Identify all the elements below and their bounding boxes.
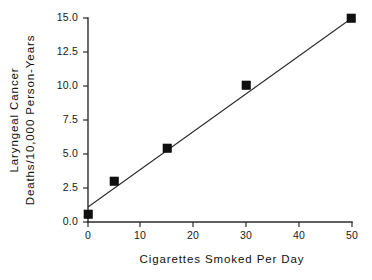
x-tick-label-0: 0 <box>85 229 91 241</box>
y-axis-title-line2: Deaths/10,000 Person-Years <box>24 35 36 206</box>
y-axis-title-line1: Laryngeal Cancer <box>8 67 20 172</box>
scatter-plot-svg: 0.0 2.5 5.0 7.5 10.0 12.5 15.0 0 10 20 3… <box>0 0 372 280</box>
x-tick-label-10: 10 <box>134 229 146 241</box>
x-tick-label-30: 30 <box>240 229 252 241</box>
data-point-0 <box>84 210 93 219</box>
x-axis-title: Cigarettes Smoked Per Day <box>139 253 304 265</box>
y-tick-label-7.5: 7.5 <box>63 113 78 125</box>
y-tick-label-2.5: 2.5 <box>63 181 78 193</box>
data-point-5 <box>110 177 119 186</box>
chart-figure: 0.0 2.5 5.0 7.5 10.0 12.5 15.0 0 10 20 3… <box>0 0 372 280</box>
y-tick-label-15: 15.0 <box>57 11 78 23</box>
data-point-15 <box>163 144 172 153</box>
x-tick-label-50: 50 <box>346 229 358 241</box>
data-point-30 <box>242 81 251 90</box>
y-tick-label-10: 10.0 <box>57 79 78 91</box>
x-tick-label-40: 40 <box>293 229 305 241</box>
y-tick-label-0: 0.0 <box>63 215 78 227</box>
y-tick-label-5: 5.0 <box>63 147 78 159</box>
data-point-50 <box>347 14 356 23</box>
x-tick-label-20: 20 <box>187 229 199 241</box>
y-tick-label-12.5: 12.5 <box>57 45 78 57</box>
